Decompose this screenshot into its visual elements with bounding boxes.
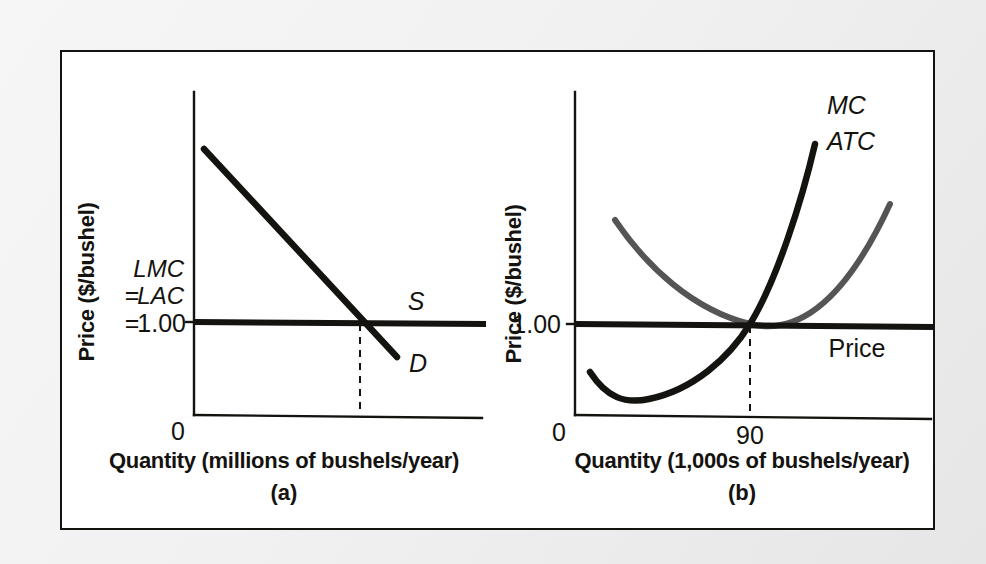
- panel-a-caption: (a): [271, 480, 298, 505]
- panel-b-mc-label: MC: [827, 91, 867, 119]
- panels-container: S D LMC = LAC = 1.00 0 Price ($/bushel) …: [62, 52, 933, 528]
- panel-b-x-axis: [575, 415, 931, 419]
- panel-a-x-axis-title: Quantity (millions of bushels/year): [109, 448, 459, 473]
- panel-a-x-axis: [194, 415, 482, 418]
- panel-b-x-tick-label: 90: [736, 421, 764, 449]
- panel-b-x-axis-title: Quantity (1,000s of bushels/year): [575, 448, 910, 473]
- panel-b-mc-curve: [590, 144, 815, 401]
- panel-b-price-label: Price: [829, 334, 886, 362]
- panel-b-atc-curve: [615, 204, 890, 326]
- panel-a-supply-curve: [194, 322, 486, 324]
- panel-b-y-axis-title: Price ($/bushel): [501, 204, 526, 363]
- panel-a-lmc-label: LMC: [133, 255, 184, 282]
- panel-b: MC ATC Price 1.00 0 90 Price ($/bushel) …: [497, 52, 937, 530]
- panel-a-demand-curve: [204, 149, 397, 357]
- panel-a-price-value-label: 1.00: [137, 309, 186, 337]
- panel-a-y-axis-title: Price ($/bushel): [74, 202, 99, 361]
- figure-frame: S D LMC = LAC = 1.00 0 Price ($/bushel) …: [60, 50, 935, 530]
- panel-b-price-line: [575, 324, 933, 327]
- panel-a: S D LMC = LAC = 1.00 0 Price ($/bushel) …: [62, 52, 502, 530]
- panel-a-origin-label: 0: [171, 417, 185, 445]
- panel-a-lac-label: LAC: [137, 282, 184, 309]
- panel-a-demand-label: D: [409, 349, 427, 377]
- panel-b-atc-label: ATC: [825, 127, 876, 155]
- panel-a-supply-label: S: [408, 287, 425, 315]
- panel-b-caption: (b): [728, 480, 756, 505]
- panel-b-origin-label: 0: [552, 418, 566, 446]
